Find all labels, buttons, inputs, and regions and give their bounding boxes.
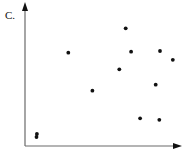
data-point — [66, 51, 70, 55]
x-axis-arrow-icon — [173, 143, 182, 149]
data-point — [154, 83, 158, 87]
data-point — [158, 49, 162, 53]
data-point — [91, 89, 95, 93]
data-point — [124, 26, 128, 30]
data-point — [138, 116, 142, 120]
data-point — [129, 50, 133, 54]
data-point — [171, 58, 175, 62]
data-point — [35, 135, 39, 139]
scatter-plot — [0, 0, 183, 156]
data-point — [117, 67, 121, 71]
data-point — [157, 118, 161, 122]
data-points — [35, 26, 175, 139]
y-axis-arrow-icon — [22, 2, 28, 11]
